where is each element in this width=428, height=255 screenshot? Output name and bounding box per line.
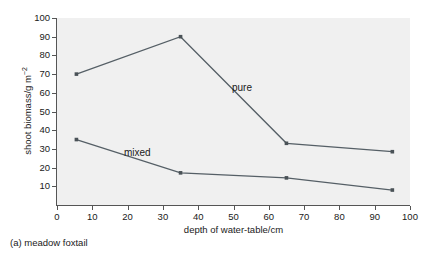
y-tick-mark	[52, 168, 56, 169]
y-axis-line	[56, 18, 57, 206]
x-tick-mark	[163, 206, 164, 210]
y-axis-title: shoot biomass/g m−2	[23, 31, 33, 191]
x-tick-label: 30	[148, 212, 178, 222]
x-tick-label: 0	[42, 212, 72, 222]
x-tick-label: 40	[183, 212, 213, 222]
x-tick-label: 90	[360, 212, 390, 222]
x-tick-mark	[269, 206, 270, 210]
figure-meadow-foxtail: 102030405060708090100 010203040506070809…	[0, 0, 428, 255]
x-tick-label: 70	[289, 212, 319, 222]
x-tick-label: 10	[77, 212, 107, 222]
x-tick-mark	[375, 206, 376, 210]
x-tick-mark	[410, 206, 411, 210]
y-axis-title-text: shoot biomass/g m	[22, 75, 33, 155]
y-tick-mark	[52, 112, 56, 113]
x-tick-mark	[234, 206, 235, 210]
y-tick-mark	[52, 130, 56, 131]
series-label-mixed: mixed	[124, 148, 151, 158]
plot-area	[57, 18, 410, 205]
x-tick-label: 100	[395, 212, 425, 222]
y-tick-mark	[52, 55, 56, 56]
y-tick-mark	[52, 74, 56, 75]
x-tick-label: 20	[113, 212, 143, 222]
figure-caption: (a) meadow foxtail	[10, 238, 88, 248]
y-tick-mark	[52, 93, 56, 94]
y-tick-mark	[52, 37, 56, 38]
x-tick-label: 80	[324, 212, 354, 222]
y-axis-title-exponent: −2	[21, 67, 28, 75]
x-tick-label: 60	[254, 212, 284, 222]
x-tick-mark	[128, 206, 129, 210]
series-label-pure: pure	[232, 83, 252, 93]
x-tick-mark	[57, 206, 58, 210]
x-tick-label: 50	[219, 212, 249, 222]
y-tick-label: 100	[8, 13, 50, 23]
x-tick-mark	[339, 206, 340, 210]
y-tick-mark	[52, 149, 56, 150]
x-axis-title: depth of water-table/cm	[57, 225, 410, 235]
y-tick-mark	[52, 186, 56, 187]
x-tick-mark	[92, 206, 93, 210]
y-tick-mark	[52, 18, 56, 19]
x-tick-mark	[304, 206, 305, 210]
x-tick-mark	[198, 206, 199, 210]
